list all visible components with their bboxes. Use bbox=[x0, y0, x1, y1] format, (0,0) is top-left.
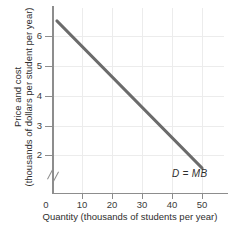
y-tick-3 bbox=[45, 126, 52, 127]
x-ticklabel: 10 bbox=[70, 199, 94, 210]
y-tick-4 bbox=[45, 96, 52, 97]
y-axis-title: Price and cost (thousands of dollars per… bbox=[12, 2, 34, 192]
x-ticklabel: 50 bbox=[190, 199, 214, 210]
gridline-horizontal bbox=[52, 96, 224, 97]
gridline-horizontal bbox=[52, 155, 224, 156]
y-axis-title-line2: (thousands of dollars per student per ye… bbox=[23, 2, 34, 192]
x-axis-title: Quantity (thousands of students per year… bbox=[30, 211, 230, 222]
y-axis-break-icon bbox=[44, 166, 62, 188]
y-tick-5 bbox=[45, 66, 52, 67]
y-axis-title-wrap: Price and cost (thousands of dollars per… bbox=[0, 0, 46, 200]
x-ticklabel: 30 bbox=[130, 199, 154, 210]
x-ticklabel: 20 bbox=[100, 199, 124, 210]
y-tick-6 bbox=[45, 36, 52, 37]
chart-figure: 6 5 4 3 2 0 10 20 30 40 50 D = MB Quanti… bbox=[0, 0, 232, 228]
y-tick-2 bbox=[45, 155, 52, 156]
x-ticklabel: 0 bbox=[34, 199, 58, 210]
plot-area bbox=[52, 8, 224, 193]
gridline-horizontal bbox=[52, 126, 224, 127]
y-axis-title-line1: Price and cost bbox=[12, 2, 23, 192]
x-ticklabel: 40 bbox=[160, 199, 184, 210]
curve-annotation-label: D = MB bbox=[172, 168, 207, 179]
gridline-horizontal bbox=[52, 36, 224, 37]
gridline-horizontal bbox=[52, 66, 224, 67]
